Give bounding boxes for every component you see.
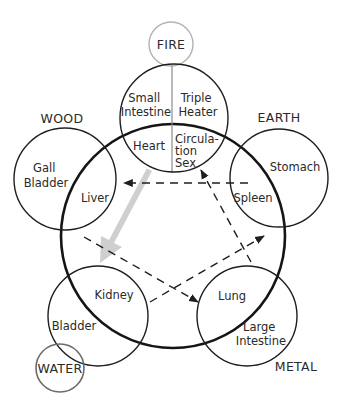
organ-small-intestine: Small Intestine	[121, 91, 171, 119]
fire-label: FIRE	[157, 37, 186, 52]
organ-kidney: Kidney	[94, 288, 133, 302]
water-group: WATER Kidney Bladder	[36, 266, 148, 392]
metal-label: METAL	[275, 359, 317, 374]
organ-circulation-sex: Circula- tion Sex	[175, 132, 222, 170]
wood-label: WOOD	[41, 111, 84, 126]
organ-liver: Liver	[81, 191, 109, 205]
wood-group: WOOD Gall Bladder Liver	[14, 111, 116, 230]
arrow-water-to-earth	[150, 236, 264, 302]
water-organ-circle	[48, 266, 148, 366]
earth-group: EARTH Stomach Spleen	[230, 110, 328, 227]
central-circle	[61, 124, 285, 348]
organ-bladder: Bladder	[52, 319, 97, 333]
fire-group: FIRE Small Intestine Triple Heater Heart…	[120, 22, 228, 173]
organ-heart: Heart	[133, 139, 165, 153]
organ-stomach: Stomach	[270, 160, 321, 174]
metal-group: METAL Lung Large Intestine	[197, 266, 317, 374]
organ-triple-heater: Triple Heater	[178, 91, 217, 119]
organ-spleen: Spleen	[233, 191, 272, 205]
arrow-metal-to-fire	[201, 170, 251, 262]
earth-organ-circle	[230, 129, 328, 227]
earth-label: EARTH	[258, 110, 301, 125]
organ-large-intestine: Large Intestine	[236, 320, 286, 348]
water-label: WATER	[38, 361, 83, 376]
organ-gall-bladder: Gall Bladder	[24, 161, 69, 190]
metal-organ-circle	[197, 266, 297, 366]
dashed-arrows	[84, 170, 264, 302]
gray-arrow-fire-to-water	[100, 166, 152, 263]
five-element-diagram: FIRE Small Intestine Triple Heater Heart…	[0, 0, 340, 404]
organ-lung: Lung	[218, 289, 246, 303]
